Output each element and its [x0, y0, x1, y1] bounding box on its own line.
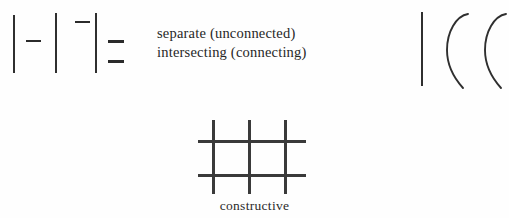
dash-separate-1 — [26, 40, 41, 42]
grid-vertical-2 — [248, 120, 251, 194]
vertical-bar-2 — [55, 13, 57, 73]
dash-intersecting-2 — [108, 60, 124, 63]
figure-canvas: separate (unconnected) intersecting (con… — [0, 0, 509, 218]
curve-stroke-1 — [447, 14, 468, 88]
grid-vertical-3 — [284, 120, 287, 194]
brush-stroke-samples — [410, 0, 509, 95]
stroke-relation-glyphs — [0, 0, 150, 90]
constructive-grid — [196, 118, 308, 196]
vertical-stroke-sample — [421, 12, 423, 86]
vertical-bar-3 — [95, 13, 97, 73]
grid-horizontal-1 — [198, 140, 306, 143]
curve-stroke-2 — [485, 14, 506, 88]
legend: separate (unconnected) intersecting (con… — [157, 24, 387, 62]
dash-intersecting-1 — [108, 40, 124, 43]
vertical-bar-1 — [13, 15, 15, 73]
legend-item-intersecting: intersecting (connecting) — [157, 43, 387, 62]
legend-item-separate: separate (unconnected) — [157, 24, 387, 43]
grid-horizontal-2 — [198, 174, 306, 177]
figure-caption: constructive — [0, 198, 509, 214]
dash-separate-2 — [75, 21, 90, 23]
curve-strokes-svg — [438, 10, 509, 90]
grid-vertical-1 — [212, 120, 215, 194]
